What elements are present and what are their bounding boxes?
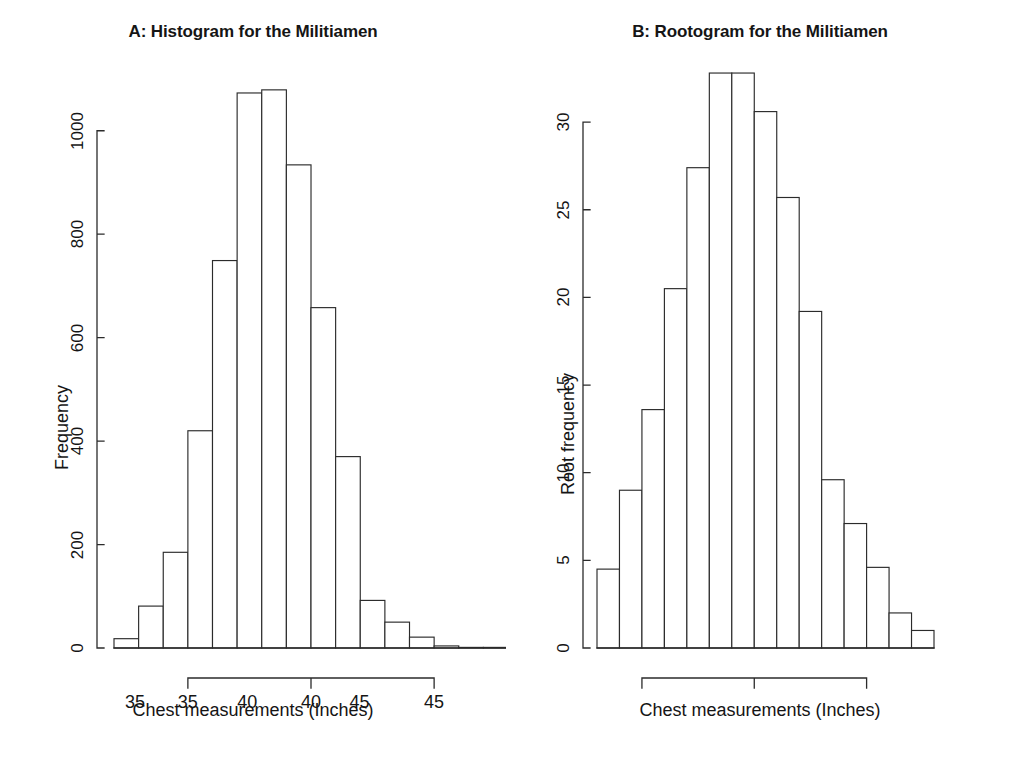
histogram-bar [213, 261, 238, 648]
y-tick-label: 20 [554, 267, 574, 327]
y-tick-label: 25 [554, 180, 574, 240]
histogram-bar [597, 569, 619, 648]
histogram-bar [385, 622, 410, 648]
rootogram-plot-area [507, 0, 1013, 781]
y-tick-label: 800 [68, 204, 88, 264]
x-tick-label: 40 [217, 692, 277, 713]
y-tick-label: 0 [554, 618, 574, 678]
y-tick-label: 0 [68, 618, 88, 678]
histogram-bar [912, 630, 934, 648]
panel-histogram: A: Histogram for the Militiamen Frequenc… [0, 0, 506, 781]
y-tick-label: 200 [68, 515, 88, 575]
y-axis [583, 122, 590, 648]
histogram-bar [336, 457, 361, 648]
bar-series [114, 90, 506, 648]
histogram-bar [139, 606, 164, 648]
x-tick-label: 45 [404, 692, 464, 713]
histogram-bar [286, 165, 311, 648]
y-tick-label: 600 [68, 308, 88, 368]
y-axis [97, 131, 104, 648]
histogram-bar [188, 431, 213, 648]
y-tick-label: 400 [68, 411, 88, 471]
histogram-bar [664, 289, 686, 648]
histogram-bar [163, 552, 188, 648]
histogram-bar [237, 93, 262, 648]
histogram-bar [262, 90, 287, 648]
histogram-bar [687, 168, 709, 648]
x-axis [642, 678, 867, 688]
y-tick-label: 1000 [68, 101, 88, 161]
histogram-bar [777, 197, 799, 648]
histogram-bar [360, 600, 385, 648]
histogram-bar [754, 112, 776, 648]
x-tick-label: 45 [330, 692, 390, 713]
figure-canvas: A: Histogram for the Militiamen Frequenc… [0, 0, 1013, 781]
histogram-bar [822, 480, 844, 648]
histogram-bar [799, 311, 821, 648]
panel-b-y-axis-title: Root frequency [558, 373, 579, 495]
histogram-bar [889, 613, 911, 648]
bar-series [597, 73, 934, 648]
x-axis [188, 678, 434, 688]
histogram-bar [311, 308, 336, 648]
y-tick-label: 30 [554, 92, 574, 152]
histogram-bar [732, 73, 754, 648]
panel-b-x-axis-title: Chest measurements (Inches) [507, 700, 1013, 721]
panel-rootogram: B: Rootogram for the Militiamen Chest me… [507, 0, 1013, 781]
histogram-bar [410, 637, 435, 648]
histogram-bar [709, 73, 731, 648]
x-tick-label: 35 [158, 692, 218, 713]
histogram-bar [114, 639, 139, 648]
histogram-bar [619, 490, 641, 648]
y-tick-label: 5 [554, 530, 574, 590]
histogram-bar [867, 567, 889, 648]
x-tick-label: 35 [105, 692, 165, 713]
histogram-bar [642, 410, 664, 648]
histogram-bar [844, 524, 866, 648]
